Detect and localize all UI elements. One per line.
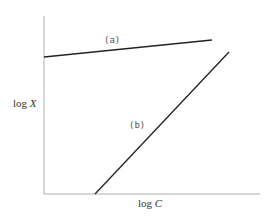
y-axis-label: log X (13, 97, 37, 109)
series-a-line (44, 40, 212, 57)
series-b-label: (b) (129, 120, 145, 130)
series-a-label: (a) (104, 35, 120, 45)
y-axis-label-prefix: log (13, 97, 30, 109)
x-axis-label-var: C (155, 197, 162, 209)
x-axis-label-prefix: log (138, 197, 155, 209)
y-axis-label-var: X (30, 97, 37, 109)
chart-plot (0, 0, 273, 218)
series-b-line (95, 52, 229, 194)
x-axis-label: log C (138, 197, 162, 209)
chart-figure: (a) (b) log X log C (0, 0, 273, 218)
